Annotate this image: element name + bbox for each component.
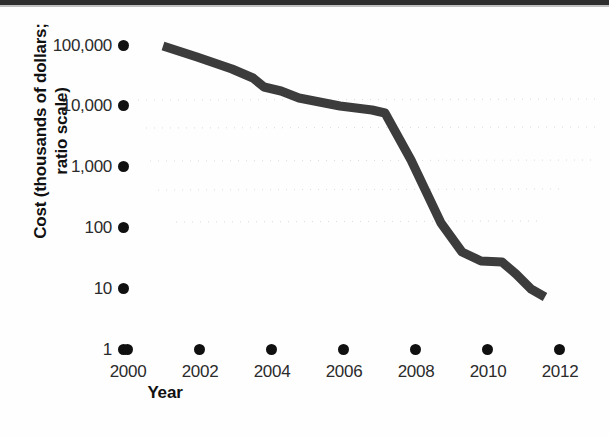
cost-line [163, 46, 545, 297]
y-tick-dot-1000 [118, 161, 129, 172]
gridlines [138, 99, 600, 222]
y-tick-dot-100 [118, 222, 129, 233]
x-tick-dot-2010 [482, 344, 493, 355]
gridline-1000 [150, 160, 596, 161]
gridline-100 [176, 221, 540, 222]
chart-figure: Cost (thousands of dollars; ratio scale)… [0, 0, 609, 437]
y-tick-label-10: 10 [0, 280, 112, 297]
y-tick-label-10000: 10,000 [0, 97, 112, 114]
x-tick-label-2006: 2006 [308, 363, 380, 380]
y-tick-label-100000: 100,000 [0, 37, 112, 54]
x-tick-label-2012: 2012 [524, 363, 596, 380]
x-tick-dot-2012 [554, 344, 565, 355]
x-tick-label-2004: 2004 [236, 363, 308, 380]
x-tick-label-2010: 2010 [452, 363, 524, 380]
gridline-midband-upper [146, 127, 598, 128]
y-tick-label-100: 100 [0, 219, 112, 236]
y-tick-label-1: 1 [0, 341, 112, 358]
y-tick-dot-100000 [118, 40, 129, 51]
gridline-10000 [138, 99, 600, 100]
data-series-cost [163, 46, 545, 297]
x-tick-label-2008: 2008 [380, 363, 452, 380]
y-tick-dot-10 [118, 283, 129, 294]
x-tick-dot-2006 [338, 344, 349, 355]
x-tick-dot-2004 [266, 344, 277, 355]
x-tick-dot-2008 [410, 344, 421, 355]
x-tick-dot-2000 [122, 344, 133, 355]
x-tick-dot-2002 [194, 344, 205, 355]
y-tick-label-1000: 1,000 [0, 158, 112, 175]
y-tick-dot-10000 [118, 100, 129, 111]
x-tick-label-2000: 2000 [92, 363, 164, 380]
x-tick-label-2002: 2002 [164, 363, 236, 380]
gridline-midband-lower [158, 189, 560, 190]
